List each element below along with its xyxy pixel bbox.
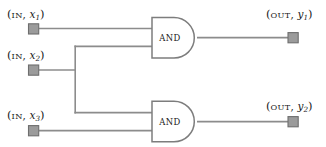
and-gate-2-label: AND xyxy=(158,117,180,127)
label-output-y2-kind: OUT xyxy=(271,102,291,112)
label-input-x1-kind: IN xyxy=(12,10,23,20)
terminal-output-y1[interactable] xyxy=(288,33,298,43)
and-gate-1-label: AND xyxy=(158,33,180,43)
label-input-x3-close-paren: ) xyxy=(40,108,45,122)
terminal-output-y2[interactable] xyxy=(288,117,298,127)
and-gate-2[interactable]: AND xyxy=(152,101,194,142)
circuit-diagram-canvas: AND AND (IN, x1) (IN, x2) (IN, x3) (OUT,… xyxy=(0,0,326,147)
label-input-x3-kind: IN xyxy=(12,111,23,121)
terminal-input-x3[interactable] xyxy=(29,126,39,136)
and-gate-1[interactable]: AND xyxy=(152,18,194,59)
label-input-x2-close-paren: ) xyxy=(40,48,45,62)
label-output-y1-kind: OUT xyxy=(271,10,291,20)
terminal-input-x1[interactable] xyxy=(29,24,39,34)
label-input-x3: (IN, x3) xyxy=(7,110,45,122)
label-output-y2-close-paren: ) xyxy=(308,99,313,113)
circuit-svg: AND AND xyxy=(0,0,326,147)
label-input-x2: (IN, x2) xyxy=(7,50,45,62)
label-input-x1: (IN, x1) xyxy=(7,9,45,21)
label-input-x2-kind: IN xyxy=(12,51,23,61)
terminal-input-x2[interactable] xyxy=(29,65,39,75)
label-output-y1: (OUT, y1) xyxy=(266,9,313,21)
label-output-y1-close-paren: ) xyxy=(308,7,313,21)
label-output-y2: (OUT, y2) xyxy=(266,101,313,113)
label-input-x1-close-paren: ) xyxy=(40,7,45,21)
